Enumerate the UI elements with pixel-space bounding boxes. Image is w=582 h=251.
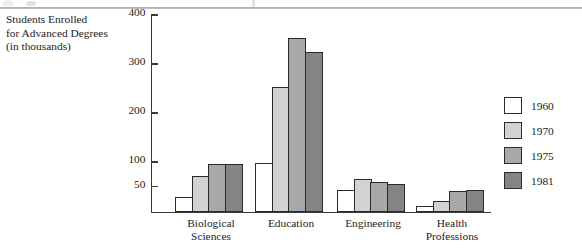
x-axis-category-label: Engineering	[345, 217, 401, 230]
bar-group: Engineering	[337, 16, 409, 212]
bar-1975[interactable]	[208, 164, 226, 212]
y-axis-tick-50: 50	[151, 186, 158, 187]
y-axis-tick-label: 100	[128, 153, 145, 165]
chart-legend: 1960197019751981	[504, 93, 554, 193]
x-axis-category-label-line: Health	[426, 217, 479, 230]
bar-group-bars	[337, 16, 404, 212]
bar-1960[interactable]	[175, 197, 193, 212]
legend-label: 1981	[531, 175, 554, 187]
bar-1981[interactable]	[466, 190, 484, 212]
bar-group: HealthProfessions	[416, 16, 488, 212]
bar-1981[interactable]	[387, 184, 405, 212]
bar-group-bars	[175, 16, 242, 212]
bar-1970[interactable]	[354, 179, 372, 212]
y-axis-tick-300: 300	[151, 63, 158, 64]
x-axis-category-label-line: Engineering	[345, 217, 401, 230]
bar-group: Education	[255, 16, 327, 212]
bar-1960[interactable]	[416, 206, 434, 212]
x-axis-line	[151, 212, 491, 213]
legend-item-1975[interactable]: 1975	[504, 143, 554, 168]
x-axis-category-label: HealthProfessions	[426, 217, 479, 244]
x-axis-category-label-line: Biological	[187, 217, 234, 230]
x-axis-category-label: BiologicalSciences	[187, 217, 234, 244]
bar-group-bars	[255, 16, 322, 212]
legend-label: 1975	[531, 150, 554, 162]
bar-1981[interactable]	[305, 52, 323, 211]
page-divider-rule	[0, 7, 582, 9]
legend-label: 1960	[531, 100, 554, 112]
legend-label: 1970	[531, 125, 554, 137]
bar-1981[interactable]	[225, 164, 243, 212]
legend-item-1970[interactable]: 1970	[504, 118, 554, 143]
bar-1970[interactable]	[192, 176, 210, 211]
x-axis-category-label-line: Sciences	[187, 230, 234, 243]
y-axis-tick-label: 200	[128, 104, 145, 116]
bar-group: BiologicalSciences	[175, 16, 247, 212]
bar-1970[interactable]	[433, 201, 451, 212]
bar-1970[interactable]	[272, 87, 290, 212]
scan-artifact	[2, 0, 14, 6]
bar-chart-plot-area: 50100200300400 BiologicalSciencesEducati…	[151, 16, 491, 213]
scan-artifact	[252, 0, 255, 7]
x-axis-category-label: Education	[268, 217, 314, 230]
bar-group-bars	[416, 16, 483, 212]
legend-item-1960[interactable]: 1960	[504, 93, 554, 118]
legend-swatch	[504, 122, 522, 139]
bar-1960[interactable]	[337, 190, 355, 212]
y-axis-tick-200: 200	[151, 112, 158, 113]
y-axis-tick-label: 400	[128, 6, 145, 18]
y-axis-tick-label: 50	[134, 178, 145, 190]
legend-swatch	[504, 147, 522, 164]
legend-swatch	[504, 97, 522, 114]
bar-1975[interactable]	[370, 182, 388, 211]
scan-artifact	[26, 1, 36, 6]
y-axis-caption: Students Enrolled for Advanced Degrees (…	[6, 13, 130, 54]
bar-1975[interactable]	[288, 38, 306, 212]
y-axis-line	[151, 16, 152, 213]
legend-swatch	[504, 172, 522, 189]
bar-1960[interactable]	[255, 163, 273, 212]
legend-item-1981[interactable]: 1981	[504, 168, 554, 193]
x-axis-category-label-line: Professions	[426, 230, 479, 243]
y-axis-tick-100: 100	[151, 161, 158, 162]
bar-1975[interactable]	[449, 191, 467, 212]
y-axis-caption-line-3: (in thousands)	[6, 40, 130, 54]
y-axis-tick-label: 300	[128, 55, 145, 67]
x-axis-category-label-line: Education	[268, 217, 314, 230]
y-axis-caption-line-1: Students Enrolled	[6, 13, 130, 27]
y-axis-caption-line-2: for Advanced Degrees	[6, 27, 130, 41]
y-axis-tick-400: 400	[151, 14, 158, 15]
